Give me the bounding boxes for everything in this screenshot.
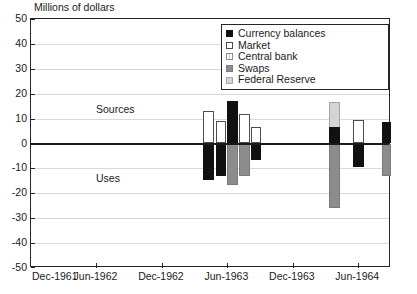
chart-bar (216, 144, 227, 176)
y-tick-mark (31, 119, 35, 120)
x-tick-mark (162, 263, 163, 268)
plot-annotation-sources: Sources (96, 103, 135, 115)
chart-bar (329, 127, 340, 143)
x-tick-label: Dec-1962 (138, 270, 184, 282)
gridline (31, 94, 389, 95)
y-tick-label: -20 (1, 186, 27, 198)
y-tick-label: -30 (1, 211, 27, 223)
x-tick-mark (96, 263, 97, 268)
chart-bar (382, 122, 391, 143)
chart-bar (203, 144, 215, 180)
x-tick-label: Jun-1962 (74, 270, 118, 282)
legend-swatch-icon (226, 65, 233, 72)
gridline (31, 218, 389, 219)
y-tick-mark (31, 19, 35, 20)
x-tick-label: Dec-1961 (32, 270, 78, 282)
y-tick-label: -50 (1, 261, 27, 273)
chart-bar (251, 144, 261, 160)
legend-swatch-icon (226, 53, 233, 60)
chart-figure: Millions of dollars 50403020100-10-20-30… (0, 0, 417, 294)
legend-item-label: Federal Reserve (238, 74, 316, 86)
chart-bar (353, 144, 364, 168)
x-tick-label: Jun-1963 (204, 270, 248, 282)
chart-bar (203, 111, 215, 143)
y-tick-mark (31, 243, 35, 244)
chart-bar (329, 144, 340, 209)
y-tick-mark (31, 218, 35, 219)
y-tick-label: -10 (1, 161, 27, 173)
plot-annotation-uses: Uses (96, 172, 120, 184)
legend-swatch-icon (226, 42, 233, 49)
chart-legend: Currency balancesMarketCentral bankSwaps… (221, 24, 389, 90)
gridline (31, 243, 389, 244)
y-tick-mark (31, 168, 35, 169)
x-tick-label: Jun-1964 (335, 270, 379, 282)
chart-bar (251, 127, 261, 143)
y-tick-mark (31, 193, 35, 194)
x-tick-label: Dec-1963 (269, 270, 315, 282)
chart-bar (227, 101, 238, 143)
y-tick-mark (31, 69, 35, 70)
y-tick-label: 30 (1, 62, 27, 74)
x-tick-mark (293, 263, 294, 268)
x-tick-mark (227, 263, 228, 268)
y-tick-label: 40 (1, 37, 27, 49)
y-tick-label: 0 (1, 137, 27, 149)
x-tick-mark (358, 263, 359, 268)
chart-bar (382, 144, 391, 176)
chart-bar (239, 144, 250, 176)
legend-swatch-icon (226, 30, 233, 37)
y-tick-label: 10 (1, 112, 27, 124)
chart-bar (239, 114, 250, 144)
legend-item-label: Currency balances (238, 28, 326, 40)
y-tick-mark (31, 44, 35, 45)
chart-bar (227, 144, 238, 185)
legend-item: Federal Reserve (226, 74, 384, 86)
zero-line-overlay (31, 143, 389, 145)
y-tick-mark (31, 94, 35, 95)
chart-axis-title: Millions of dollars (34, 1, 115, 13)
chart-bar (353, 120, 364, 144)
legend-item: Currency balances (226, 28, 384, 40)
y-tick-label: 50 (1, 12, 27, 24)
legend-swatch-icon (226, 77, 233, 84)
chart-bar (216, 121, 227, 143)
y-tick-mark (31, 267, 35, 268)
y-tick-label: -40 (1, 236, 27, 248)
y-tick-label: 20 (1, 87, 27, 99)
